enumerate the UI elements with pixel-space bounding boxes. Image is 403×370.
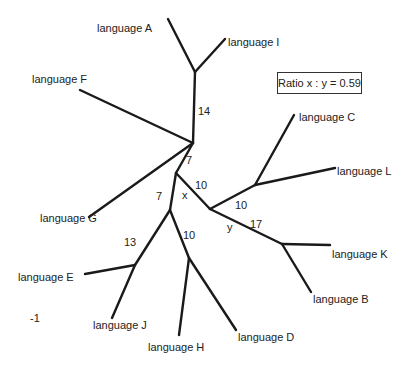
leaf-label-e: language E [18,272,74,283]
branch-label-13: 13 [124,237,136,248]
branch-label-y: y [227,222,233,233]
leaf-label-c: language C [299,112,355,123]
leaf-label-f: language F [32,74,87,85]
branch-label-x: x [182,190,188,201]
leaf-label-j: language J [93,320,147,331]
branch-label-10-x: 10 [195,180,207,191]
leaf-label-a: language A [97,23,152,34]
leaf-label-h: language H [148,342,204,353]
branch-label-7-left: 7 [156,191,162,202]
leaf-label-g: language G [40,213,97,224]
scale-marker: -1 [30,313,40,324]
leaf-label-l: language L [337,166,391,177]
leaf-label-k: language K [332,249,388,260]
leaf-label-i: language I [228,37,279,48]
branch-label-7-upper: 7 [186,155,192,166]
leaf-label-b: language B [313,294,369,305]
ratio-label: Ratio x : y = 0.59 [278,77,361,89]
branch-label-17: 17 [250,219,262,230]
ratio-box: Ratio x : y = 0.59 [277,72,362,94]
branch-label-14: 14 [198,106,210,117]
branch-label-10-right: 10 [235,200,247,211]
branch-label-10-lower: 10 [183,230,195,241]
leaf-label-d: language D [238,332,294,343]
